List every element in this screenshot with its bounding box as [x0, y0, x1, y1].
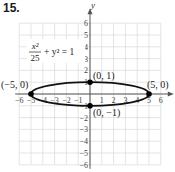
point-marker — [87, 79, 93, 85]
equation-label: x²25+ y² = 1 — [27, 39, 85, 63]
x-tick-label: 2 — [112, 96, 116, 105]
ellipse-graph: xy −6−5−4−3−2−1123456654321−1−2−3−4−5−6 … — [0, 0, 175, 172]
point-marker — [28, 91, 34, 97]
y-tick-label: 6 — [84, 19, 88, 28]
y-tick-label: −4 — [79, 137, 88, 146]
x-tick-label: 6 — [159, 96, 163, 105]
y-tick-label: −2 — [79, 114, 88, 123]
equation-numerator: x² — [31, 41, 39, 51]
point-label: (−5, 0) — [1, 79, 28, 91]
x-tick-label: −2 — [62, 96, 71, 105]
equation-denominator: 25 — [31, 53, 41, 63]
equation-rest: + y² = 1 — [44, 47, 74, 57]
point-label: (5, 0) — [147, 79, 169, 91]
point-marker — [146, 91, 152, 97]
y-tick-label: −3 — [79, 125, 88, 134]
y-tick-label: 2 — [84, 66, 88, 75]
x-tick-label: −6 — [15, 96, 24, 105]
x-axis-arrow-icon — [168, 92, 174, 97]
point-marker — [87, 103, 93, 109]
point-label: (0, −1) — [93, 107, 120, 119]
x-tick-label: 1 — [100, 96, 104, 105]
point-label: (0, 1) — [93, 70, 115, 82]
y-tick-label: 5 — [84, 31, 88, 40]
y-tick-label: −6 — [79, 161, 88, 170]
y-axis-label: y — [90, 0, 95, 10]
y-tick-label: −5 — [79, 149, 88, 158]
